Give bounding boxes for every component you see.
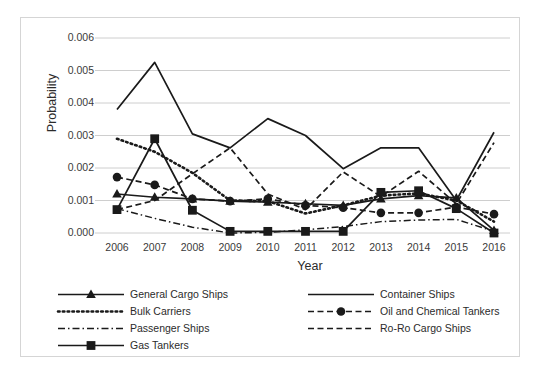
series-marker-3 [150, 181, 159, 190]
series-marker-6 [490, 229, 499, 238]
legend-line-icon [306, 320, 376, 337]
legend-label: General Cargo Ships [130, 286, 228, 303]
series-marker-6 [377, 188, 386, 197]
legend-label: Container Ships [380, 286, 455, 303]
legend-label: Oil and Chemical Tankers [380, 303, 499, 320]
series-marker-3 [414, 209, 423, 218]
series-marker-3 [301, 201, 310, 210]
legend-line-icon [56, 303, 126, 320]
chart-legend: General Cargo ShipsContainer ShipsBulk C… [56, 286, 520, 352]
legend-line-icon [306, 303, 376, 320]
series-marker-3 [490, 210, 499, 219]
series-marker-6 [452, 204, 461, 213]
legend-line-icon [306, 286, 376, 303]
series-marker-0 [112, 189, 122, 198]
series-marker-6 [188, 206, 197, 215]
legend-label: Gas Tankers [130, 337, 189, 354]
chart-figure: Probability Year 0.0000.0010.0020.0030.0… [0, 0, 541, 374]
series-marker-6 [150, 134, 159, 143]
series-line-6 [117, 139, 494, 233]
legend-label: Ro-Ro Cargo Ships [380, 320, 471, 337]
series-marker-6 [339, 227, 348, 236]
series-marker-3 [226, 197, 235, 206]
series-marker-6 [263, 227, 272, 236]
legend-label: Bulk Carriers [130, 303, 191, 320]
series-marker-6 [226, 227, 235, 236]
legend-line-icon [56, 286, 126, 303]
series-marker-6 [113, 205, 122, 214]
series-marker-3 [113, 173, 122, 182]
series-marker-6 [414, 186, 423, 195]
series-marker-3 [188, 195, 197, 204]
series-marker-3 [377, 209, 386, 218]
series-line-1 [117, 62, 494, 200]
series-marker-3 [339, 203, 348, 212]
legend-line-icon [56, 320, 126, 337]
legend-label: Passenger Ships [130, 320, 209, 337]
legend-line-icon [56, 337, 126, 354]
series-marker-6 [301, 227, 310, 236]
